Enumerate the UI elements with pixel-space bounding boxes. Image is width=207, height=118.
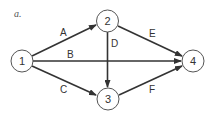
node-2-label: 2 [104,15,110,27]
edge-label-d: D [111,38,118,49]
edge-label-c: C [60,84,67,95]
network-diagram: a. A B C D E F 1 2 3 4 [0,0,207,118]
edge-label-b: B [67,49,74,60]
edge-label-e: E [149,28,156,39]
node-1: 1 [11,50,33,72]
node-1-label: 1 [19,55,25,67]
node-3: 3 [97,88,119,110]
node-4: 4 [182,50,204,72]
edge-label-f: F [149,84,155,95]
node-2: 2 [97,10,119,32]
node-4-label: 4 [190,55,196,67]
node-3-label: 3 [105,93,111,105]
edges [32,25,182,95]
figure-label: a. [14,8,22,19]
edge-label-a: A [60,27,67,38]
